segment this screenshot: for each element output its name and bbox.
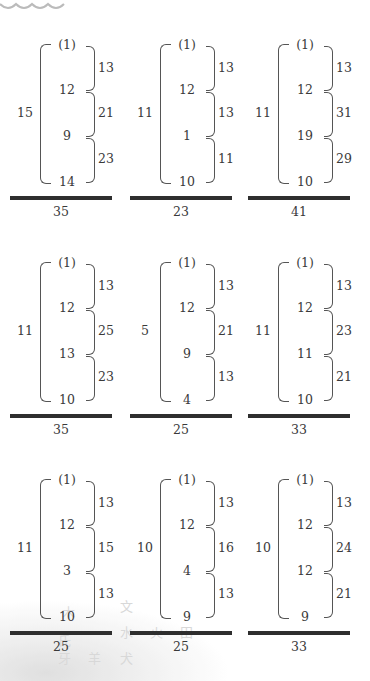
bracket-diagram-3: 11 (1) 12 19 10 13 31 29 41 <box>252 38 367 218</box>
right-brace-1 <box>324 46 333 91</box>
right-brace-3 <box>324 356 333 401</box>
total-bar <box>248 631 350 635</box>
value-2: 12 <box>290 83 320 97</box>
right-brace-2 <box>86 92 95 137</box>
right-brace-1 <box>206 46 215 91</box>
value-top: (1) <box>172 256 202 270</box>
total-value: 23 <box>130 205 232 219</box>
right-label-1: 13 <box>98 279 114 293</box>
bracket-diagram-9: 10 (1) 12 12 9 13 24 21 33 <box>252 473 367 653</box>
total-bar <box>130 631 232 635</box>
value-2: 12 <box>52 83 82 97</box>
total-value: 35 <box>10 423 112 437</box>
value-top: (1) <box>172 38 202 52</box>
value-top: (1) <box>290 256 320 270</box>
right-brace-3 <box>86 573 95 618</box>
right-brace-3 <box>206 573 215 618</box>
total-value: 35 <box>10 205 112 219</box>
right-label-3: 23 <box>98 370 114 384</box>
right-label-3: 13 <box>218 587 234 601</box>
decorative-wave-icon <box>0 0 70 12</box>
right-brace-1 <box>86 481 95 526</box>
right-brace-3 <box>86 138 95 183</box>
right-label-3: 13 <box>218 370 234 384</box>
left-label: 11 <box>252 324 274 338</box>
total-bar <box>248 414 350 418</box>
right-label-3: 11 <box>218 152 234 166</box>
value-2: 12 <box>172 301 202 315</box>
value-3: 9 <box>52 129 82 143</box>
left-bracket <box>160 262 171 402</box>
total-value: 33 <box>248 423 350 437</box>
value-top: (1) <box>52 256 82 270</box>
value-bottom: 9 <box>172 610 202 624</box>
value-bottom: 14 <box>52 175 82 189</box>
bracket-diagram-8: 10 (1) 12 4 9 13 16 13 25 <box>134 473 249 653</box>
right-brace-3 <box>324 138 333 183</box>
right-label-3: 21 <box>336 587 352 601</box>
value-2: 12 <box>172 83 202 97</box>
value-top: (1) <box>52 38 82 52</box>
right-label-1: 13 <box>336 61 352 75</box>
right-label-2: 23 <box>336 324 352 338</box>
right-label-2: 16 <box>218 541 234 555</box>
value-2: 12 <box>290 518 320 532</box>
right-label-1: 13 <box>218 61 234 75</box>
right-brace-2 <box>86 310 95 355</box>
total-bar <box>10 414 112 418</box>
right-brace-2 <box>206 92 215 137</box>
right-label-1: 13 <box>218 496 234 510</box>
total-value: 33 <box>248 640 350 654</box>
left-label: 11 <box>14 324 36 338</box>
right-label-3: 29 <box>336 152 352 166</box>
right-label-3: 23 <box>98 152 114 166</box>
value-3: 13 <box>52 347 82 361</box>
bracket-diagram-2: 11 (1) 12 1 10 13 13 11 23 <box>134 38 249 218</box>
value-bottom: 10 <box>290 175 320 189</box>
right-label-2: 21 <box>218 324 234 338</box>
right-brace-1 <box>206 264 215 309</box>
right-label-3: 21 <box>336 370 352 384</box>
value-3: 3 <box>52 564 82 578</box>
total-bar <box>130 196 232 200</box>
right-brace-2 <box>86 527 95 572</box>
left-bracket <box>278 44 289 184</box>
right-brace-3 <box>206 138 215 183</box>
right-brace-1 <box>86 46 95 91</box>
right-brace-2 <box>206 527 215 572</box>
right-label-2: 25 <box>98 324 114 338</box>
value-top: (1) <box>290 38 320 52</box>
right-brace-3 <box>206 356 215 401</box>
bracket-diagram-5: 5 (1) 12 9 4 13 21 13 25 <box>134 256 249 436</box>
value-2: 12 <box>52 518 82 532</box>
total-value: 25 <box>10 640 112 654</box>
left-label: 15 <box>14 106 36 120</box>
value-bottom: 10 <box>172 175 202 189</box>
left-bracket <box>40 479 51 619</box>
left-label: 5 <box>134 324 156 338</box>
right-brace-2 <box>324 92 333 137</box>
left-bracket <box>160 479 171 619</box>
total-value: 25 <box>130 423 232 437</box>
right-label-1: 13 <box>336 496 352 510</box>
bracket-diagram-7: 11 (1) 12 3 10 13 15 13 25 <box>14 473 129 653</box>
right-brace-1 <box>324 264 333 309</box>
value-3: 1 <box>172 129 202 143</box>
value-top: (1) <box>290 473 320 487</box>
left-label: 10 <box>134 541 156 555</box>
bracket-diagram-6: 11 (1) 12 11 10 13 23 21 33 <box>252 256 367 436</box>
left-bracket <box>278 479 289 619</box>
right-label-2: 21 <box>98 106 114 120</box>
value-2: 12 <box>290 301 320 315</box>
total-bar <box>10 196 112 200</box>
total-value: 41 <box>248 205 350 219</box>
value-bottom: 4 <box>172 393 202 407</box>
right-label-1: 13 <box>98 496 114 510</box>
right-brace-3 <box>86 356 95 401</box>
value-bottom: 10 <box>52 610 82 624</box>
total-value: 25 <box>130 640 232 654</box>
value-top: (1) <box>52 473 82 487</box>
total-bar <box>248 196 350 200</box>
value-bottom: 10 <box>290 393 320 407</box>
value-3: 12 <box>290 564 320 578</box>
